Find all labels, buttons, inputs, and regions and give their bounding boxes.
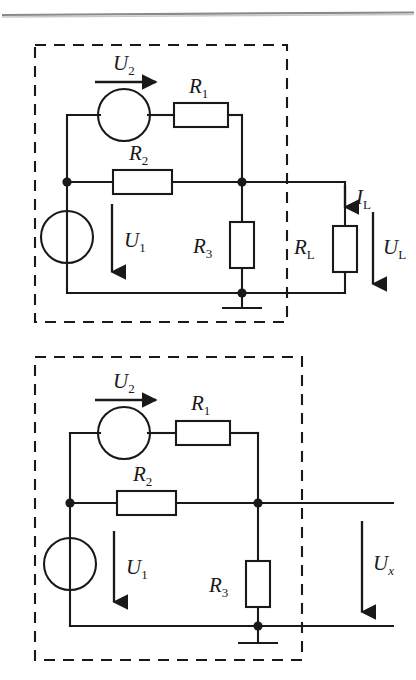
label-ul: UL [383, 235, 406, 262]
resistor-r3 [230, 222, 254, 268]
voltage-source-u2 [98, 407, 150, 459]
ground-symbol [222, 293, 262, 308]
bottom-circuit: U2 R1 R2 R3 U1 Ux [35, 357, 394, 660]
label-il: IL [355, 185, 371, 212]
label-r1: R1 [188, 74, 208, 101]
label-rl: RL [293, 235, 315, 262]
wiring [67, 115, 345, 293]
node-dot-left [62, 177, 71, 186]
resistor-r1 [174, 103, 228, 127]
header-rule [2, 13, 414, 18]
ground-symbol [238, 626, 278, 643]
resistor-r2 [113, 170, 172, 194]
label-r2: R2 [132, 462, 152, 489]
figure-page: U2 R1 R2 R3 U1 IL RL UL [0, 0, 416, 680]
circuit-figure-svg: U2 R1 R2 R3 U1 IL RL UL [0, 0, 416, 680]
label-r2: R2 [128, 141, 148, 168]
resistor-r2 [117, 491, 176, 515]
label-u1: U1 [126, 555, 148, 582]
resistor-r3 [246, 561, 270, 607]
voltage-source-u2 [98, 89, 150, 141]
label-u2: U2 [113, 51, 135, 78]
label-u1: U1 [124, 228, 146, 255]
node-dot-center [253, 498, 262, 507]
resistor-r1 [176, 421, 230, 445]
label-r3: R3 [192, 234, 212, 261]
node-dot-left [65, 498, 74, 507]
resistor-rl [333, 226, 357, 272]
label-u2: U2 [113, 369, 135, 396]
wiring [70, 433, 393, 626]
node-dot-center [237, 177, 246, 186]
label-r3: R3 [208, 573, 228, 600]
top-circuit: U2 R1 R2 R3 U1 IL RL UL [35, 45, 406, 322]
label-ux: Ux [373, 551, 394, 578]
label-r1: R1 [190, 391, 210, 418]
